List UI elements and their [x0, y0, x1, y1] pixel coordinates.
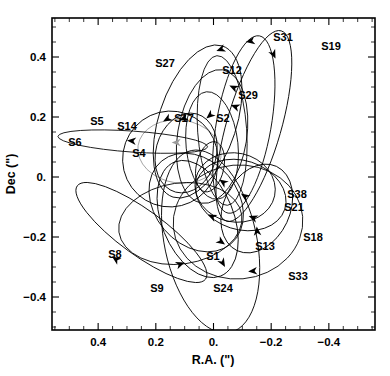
- y-tick-label: 0.4: [30, 51, 47, 63]
- x-tick-label: 0.4: [90, 336, 107, 348]
- x-axis-label: R.A. ("): [192, 353, 235, 367]
- star-label-s33: S33: [288, 270, 308, 282]
- star-label-s1: S1: [206, 250, 219, 262]
- y-tick-label: 0.2: [30, 111, 46, 123]
- star-label-s4: S4: [132, 147, 146, 159]
- x-tick-label: 0.: [209, 336, 219, 348]
- star-label-s18: S18: [303, 231, 323, 243]
- star-label-s17: S17: [174, 112, 194, 124]
- y-tick-label: −0.4: [23, 291, 46, 303]
- star-label-s6: S6: [68, 136, 81, 148]
- star-label-s13: S13: [255, 240, 275, 252]
- y-tick-label: −0.2: [23, 231, 46, 243]
- star-label-s8: S8: [108, 248, 121, 260]
- y-tick-label: 0.: [36, 171, 46, 183]
- x-tick-label: 0.2: [148, 336, 164, 348]
- orbit-figure: 0.40.20.−0.2−0.40.40.20.−0.2−0.4 S27S12S…: [0, 0, 390, 376]
- x-tick-label: −0.4: [318, 336, 341, 348]
- star-label-s38: S38: [287, 188, 307, 200]
- star-label-s31: S31: [273, 31, 293, 43]
- star-label-s5: S5: [90, 115, 103, 127]
- x-tick-label: −0.2: [260, 336, 283, 348]
- y-axis-label: Dec ("): [4, 154, 18, 195]
- star-label-s2: S2: [216, 112, 229, 124]
- star-label-s21: S21: [284, 201, 304, 213]
- star-label-s19: S19: [321, 40, 341, 52]
- star-label-s12: S12: [222, 64, 242, 76]
- star-label-s9: S9: [150, 282, 163, 294]
- star-label-s29: S29: [238, 89, 258, 101]
- star-label-s24: S24: [213, 282, 233, 294]
- star-label-s14: S14: [117, 120, 137, 132]
- star-label-s27: S27: [155, 57, 175, 69]
